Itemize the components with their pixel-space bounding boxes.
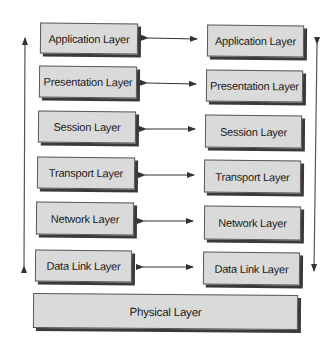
right-vertical-arrow-icon bbox=[314, 44, 317, 271]
left-vertical-arrow-icon bbox=[24, 38, 25, 266]
arrows-layer bbox=[0, 0, 336, 346]
peer-arrow-application-icon bbox=[148, 38, 197, 39]
peer-arrow-presentation-icon bbox=[147, 83, 196, 84]
